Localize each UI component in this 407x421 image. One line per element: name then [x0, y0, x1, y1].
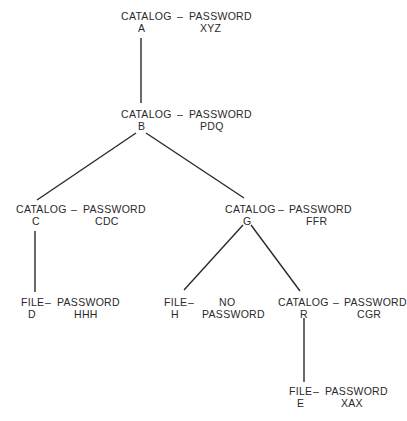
edge-g-r	[251, 225, 300, 291]
node-kind: FILE	[164, 297, 187, 308]
edge-g-h	[184, 225, 243, 290]
node-password-label: PASSWORD	[289, 204, 352, 215]
node-separator: –	[188, 297, 194, 308]
node-password-label: PASSWORD	[189, 109, 252, 120]
node-id: G	[243, 216, 251, 227]
node-password: CDC	[95, 216, 119, 227]
node-id: R	[300, 309, 308, 320]
node-password: PDQ	[200, 121, 224, 132]
node-separator: –	[278, 204, 284, 215]
node-id: B	[138, 121, 145, 132]
edge-b-g	[146, 133, 244, 198]
node-separator: –	[313, 386, 319, 397]
node-separator: –	[177, 11, 183, 22]
node-password-label: PASSWORD	[325, 386, 388, 397]
node-password: HHH	[74, 309, 98, 320]
node-password: CGR	[357, 309, 381, 320]
node-password-label: PASSWORD	[83, 204, 146, 215]
node-password-label: NO	[219, 297, 235, 308]
node-kind: FILE	[21, 297, 44, 308]
node-separator: –	[45, 297, 51, 308]
node-id: H	[171, 309, 179, 320]
node-separator: –	[71, 204, 77, 215]
node-kind: CATALOG	[121, 109, 172, 120]
node-password-label: PASSWORD	[189, 11, 252, 22]
node-kind: CATALOG	[278, 297, 329, 308]
node-id: D	[28, 309, 36, 320]
node-separator: –	[333, 297, 339, 308]
node-password: PASSWORD	[202, 309, 265, 320]
node-password-label: PASSWORD	[344, 297, 407, 308]
node-id: E	[297, 398, 304, 409]
node-password-label: PASSWORD	[57, 297, 120, 308]
node-kind: CATALOG	[225, 204, 276, 215]
node-separator: –	[177, 109, 183, 120]
node-kind: CATALOG	[16, 204, 67, 215]
node-password: FFR	[306, 216, 327, 227]
node-id: A	[138, 23, 145, 34]
node-id: C	[32, 216, 40, 227]
node-kind: CATALOG	[121, 11, 172, 22]
edge-b-c	[37, 133, 136, 200]
node-password: XYZ	[200, 23, 221, 34]
node-kind: FILE	[289, 386, 312, 397]
node-password: XAX	[341, 398, 363, 409]
